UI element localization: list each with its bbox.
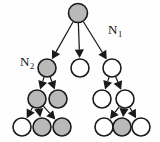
tree-node-l2-a[interactable] — [38, 59, 56, 77]
tree-node-l4-e[interactable] — [113, 118, 131, 136]
tree-edge — [119, 108, 128, 117]
arrowhead-icon — [103, 80, 112, 90]
tree-diagram-canvas: N1N2 — [0, 0, 160, 142]
tree-edge — [52, 22, 73, 60]
arrowhead-icon — [110, 109, 119, 119]
arrowhead-icon — [34, 108, 43, 117]
tree-node-l3-b[interactable] — [49, 90, 67, 108]
tree-edge — [103, 77, 112, 89]
tree-edge — [128, 107, 136, 118]
tree-node-root[interactable] — [69, 4, 88, 23]
arrowhead-icon — [38, 80, 47, 90]
tree-node-l3-c[interactable] — [93, 90, 111, 108]
tree-node-l4-b[interactable] — [33, 118, 51, 136]
tree-node-l3-a[interactable] — [28, 90, 46, 108]
tree-edge — [34, 108, 43, 117]
tree-node-l2-c[interactable] — [103, 59, 121, 77]
tree-edge — [114, 77, 122, 90]
arrowhead-icon — [119, 108, 128, 117]
tree-edge — [38, 77, 47, 89]
tree-edge — [43, 106, 55, 119]
label-n1-subscript: 1 — [118, 29, 122, 39]
tree-edge — [83, 22, 106, 60]
label-n2-subscript: 2 — [30, 61, 34, 71]
tree-diagram: N1N2 — [0, 0, 160, 142]
tree-edge — [47, 77, 56, 90]
tree-edge — [110, 107, 119, 119]
tree-node-l4-c[interactable] — [53, 118, 71, 136]
tree-node-l4-a[interactable] — [13, 118, 31, 136]
tree-node-l4-f[interactable] — [132, 118, 150, 136]
arrowhead-icon — [98, 50, 106, 60]
tree-node-l2-b[interactable] — [71, 59, 89, 77]
arrowhead-icon — [75, 49, 84, 58]
label-n1: N1 — [108, 22, 122, 39]
tree-edge — [27, 107, 35, 118]
label-n2: N2 — [20, 54, 34, 71]
tree-node-l4-d[interactable] — [95, 118, 113, 136]
tree-node-l3-d[interactable] — [116, 90, 134, 108]
tree-edge — [75, 23, 84, 58]
